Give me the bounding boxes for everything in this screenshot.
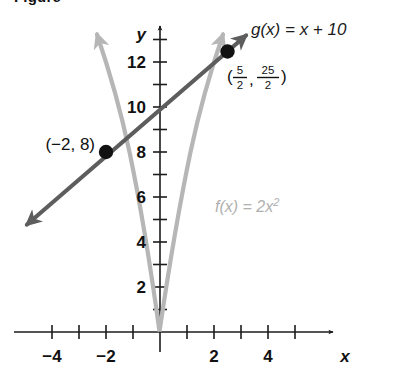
y-tick-label-12: 12 [127, 53, 146, 72]
fraction-y-denominator: 2 [265, 79, 271, 91]
fraction-x-denominator: 2 [237, 79, 243, 91]
y-tick-label-6: 6 [137, 188, 146, 207]
coordinate-plane-graph: −4 −2 2 4 2 4 6 8 10 12 x y g(x) = x + 1… [0, 0, 395, 378]
y-tick-label-8: 8 [137, 143, 146, 162]
fraction-x-numerator: 5 [237, 64, 243, 76]
series-label-f-text: f(x) = 2x [215, 198, 274, 215]
series-label-f: f(x) = 2x2 [215, 196, 279, 215]
series-label-g: g(x) = x + 10 [251, 20, 347, 39]
x-tick-label-neg2: −2 [96, 347, 115, 366]
y-tick-label-10: 10 [127, 98, 146, 117]
y-axis-label: y [136, 25, 148, 44]
x-axis [14, 325, 333, 339]
series-label-f-exponent: 2 [272, 196, 279, 208]
x-tick-label-neg4: −4 [42, 347, 62, 366]
x-tick-label-4: 4 [263, 347, 273, 366]
y-tick-label-4: 4 [137, 233, 147, 252]
annotation-label-intersection-left: (−2, 8) [45, 135, 95, 154]
annotation-label-intersection-right: ( 5 2 , 25 2 ) [227, 64, 287, 91]
point-marker-intersection-left [99, 145, 113, 159]
y-tick-label-2: 2 [137, 278, 146, 297]
annotation-paren-close: ) [281, 67, 287, 86]
annotation-comma: , [249, 70, 254, 89]
series-label-g-text: g(x) = x + 10 [251, 20, 347, 39]
x-tick-label-2: 2 [209, 347, 218, 366]
fraction-y-numerator: 25 [262, 64, 275, 76]
figure-container: Figure [0, 0, 395, 378]
annotation-paren-open: ( [227, 67, 233, 86]
x-axis-label: x [339, 347, 351, 366]
point-marker-intersection-right [220, 44, 234, 58]
